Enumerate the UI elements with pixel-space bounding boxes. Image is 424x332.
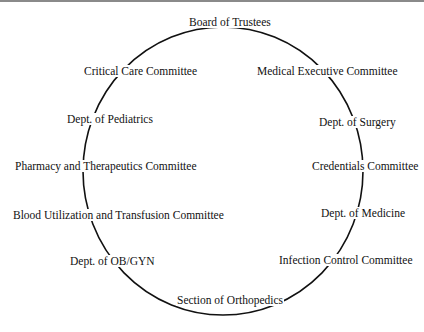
node-pharmacy-therapeutics-committee: Pharmacy and Therapeutics Committee <box>14 160 198 172</box>
node-credentials-committee: Credentials Committee <box>311 160 419 172</box>
node-critical-care-committee: Critical Care Committee <box>83 65 198 77</box>
node-section-of-orthopedics: Section of Orthopedics <box>176 294 284 306</box>
node-infection-control-committee: Infection Control Committee <box>278 254 414 266</box>
node-dept-of-pediatrics: Dept. of Pediatrics <box>66 113 154 125</box>
node-dept-of-medicine: Dept. of Medicine <box>320 207 406 219</box>
node-board-of-trustees: Board of Trustees <box>188 16 272 28</box>
node-dept-of-ob-gyn: Dept. of OB/GYN <box>69 255 156 267</box>
node-blood-utilization-transfusion-committee: Blood Utilization and Transfusion Commit… <box>12 209 225 221</box>
node-medical-executive-committee: Medical Executive Committee <box>256 65 399 77</box>
node-dept-of-surgery: Dept. of Surgery <box>318 116 397 128</box>
